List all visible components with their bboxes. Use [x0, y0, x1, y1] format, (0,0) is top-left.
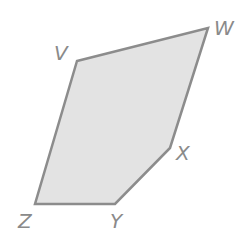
vertex-label-z: Z — [17, 209, 33, 233]
vertex-label-x: X — [175, 141, 191, 165]
vertex-label-v: V — [54, 41, 69, 65]
vertex-label-y: Y — [110, 209, 124, 233]
vertex-label-w: W — [214, 16, 235, 40]
pentagon-diagram: V W X Y Z — [0, 0, 240, 236]
